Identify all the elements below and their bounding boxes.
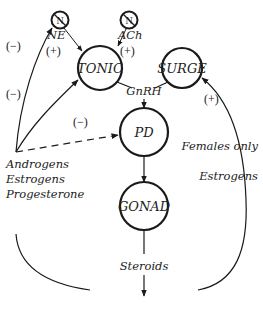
estrogen-to-surge-sign: (+) [204,92,219,106]
steroids-label: Steroids [120,259,169,273]
surge-label: SURGE [157,61,207,76]
ne-label: NE [46,28,66,42]
surge-node: SURGE [157,48,207,88]
left-feedback-curve [16,234,90,290]
feedback-to-n-sign: (−) [6,39,21,53]
neuron-node-left: N [52,12,69,29]
progesterone-label: Progesterone [5,187,84,201]
estrogens-right-label: Estrogens [198,169,258,183]
pd-node: PD [120,108,168,156]
ne-sign: (+) [46,44,61,58]
estrogens-left-label: Estrogens [5,172,65,186]
pd-label: PD [133,125,154,140]
ach-label: ACh [117,28,143,42]
feedback-to-tonic-arrow [16,80,78,152]
tonic-label: TONIC [77,61,123,76]
androgens-label: Androgens [5,157,69,171]
hormone-feedback-diagram: N N NE (+) ACh (+) TONIC SURGE GnRH PD G… [0,0,263,322]
ach-sign: (+) [120,44,135,58]
tonic-node: TONIC [77,46,123,90]
neuron-node-right: N [121,12,138,29]
feedback-to-pd-arrow [16,135,118,152]
right-feedback-curve [198,78,246,290]
ne-arrow [64,28,82,51]
feedback-to-pd-sign: (−) [73,115,88,129]
feedback-to-tonic-sign: (−) [6,87,21,101]
females-only-label: Females only [181,139,259,153]
gnrh-label: GnRH [126,84,162,98]
gonad-node: GONAD [118,182,171,230]
gonad-label: GONAD [118,199,171,214]
